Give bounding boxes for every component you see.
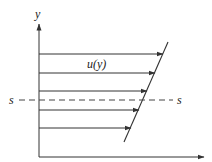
velocity-profile-diagram: y s s u(y) [0,0,212,162]
y-axis-label: y [34,7,41,21]
section-label-right: s [177,93,182,107]
profile-label: u(y) [87,57,106,71]
profile-line [124,42,168,142]
section-label-left: s [9,93,14,107]
